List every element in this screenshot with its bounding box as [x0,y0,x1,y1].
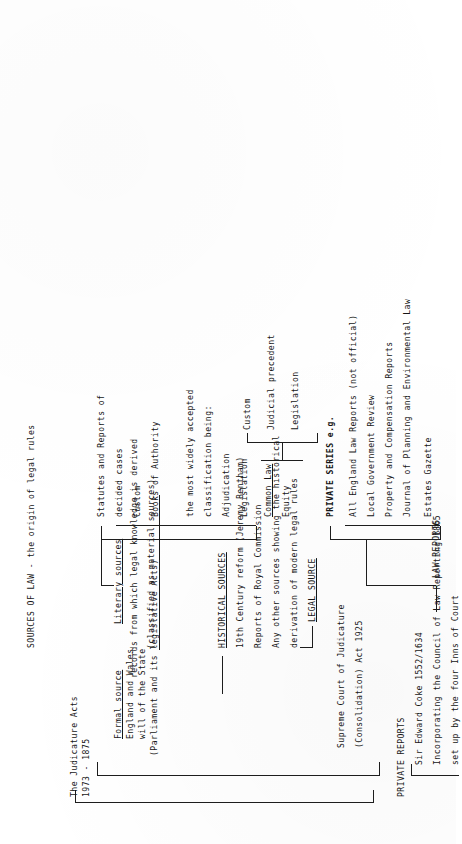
outcome-legislation: Legislation [290,371,302,430]
private-series-arm-top [330,526,331,540]
historical-connector [222,656,223,694]
material-item-books-of-authority: Books of Authority [150,421,162,517]
literary-underline [159,495,160,650]
judicature-acts-line1: The Judicature Acts [69,696,81,797]
outcomes-arm-1 [247,433,248,443]
private-reports-line3: set up by the four Inns of Court [450,595,462,765]
outcomes-arm-3 [317,433,318,443]
private-series-arm-bottom [440,526,441,540]
private-series-item-2: Local Government Review [366,395,378,517]
private-series-inner [345,525,440,526]
page-title: SOURCES OF LAW - the origin of legal rul… [26,424,38,648]
private-series-item-5: Estates Gazette [423,437,435,517]
legalsource-connector-v [300,647,312,648]
private-reports-heading: PRIVATE REPORTS [396,717,408,797]
private-series-bracket-spine [330,539,440,540]
material-item-decided-cases: decided cases [114,448,126,517]
judicature-bracket-bottom [373,790,374,803]
historical-line1: 19th Century reform (Jeremy Bentham) [235,456,247,648]
supreme-court-line2: (Consolidation) Act 1925 [354,620,366,748]
classification-line1: the most widely accepted [185,389,197,517]
outcome-judicial-precedent: Judicial precedent [266,334,278,430]
main-bracket-spine [75,802,373,803]
literary-sources-line1: records from which legal knowledge is de… [129,438,141,678]
private-series-item-1: All England Law Reports (not official) [348,315,360,517]
legalsource-connector [312,626,313,648]
private-series-item-4: Journal of Planning and Environmental La… [402,299,414,517]
secondary-bracket-spine [97,775,379,776]
historical-sources-heading: HISTORICAL SOURCES [217,552,229,648]
legal-source-heading: LEGAL SOURCE [307,558,319,622]
secondary-bracket-top-tick [97,762,98,776]
material-item-custom: Custom [132,485,144,517]
law-reports-to-series-top [366,540,367,586]
historical-line4: derivation of modern legal rules [289,478,301,648]
law-reports-connector [436,586,437,612]
literary-connector-horizontal [101,540,102,586]
material-bracket-arm-1 [101,526,102,540]
judicature-acts-line2: 1973 - 1875 [81,738,93,797]
literary-sources-heading: Literary sources [113,539,125,624]
formal-source-heading: Formal source [113,670,125,739]
private-reports-bracket-top [411,764,412,776]
material-bracket-spine [101,539,256,540]
secondary-bracket-bottom-tick [379,762,380,776]
private-series-item-3: Property and Compensation Reports [384,341,396,517]
material-item-statutes: Statutes and Reports of [96,395,108,517]
law-reports-to-series-spine [366,585,436,586]
classification-line2: classification being: [203,405,215,517]
outcome-custom: Custom [242,398,254,430]
historical-line2: Reports of Royal Commission [253,504,265,648]
classification-adjudication: Adjudication [221,453,233,517]
private-reports-bracket-spine [411,775,459,776]
private-reports-line1: Sir Edward Coke 1552/1634 [414,632,426,765]
private-series-heading: PRIVATE SERIES e.g. [325,416,337,517]
literary-connector-vertical [101,585,114,586]
supreme-court-line1: Supreme Court of Judicature [336,604,348,748]
historical-line3: Any other sources showing the historical [271,435,283,648]
